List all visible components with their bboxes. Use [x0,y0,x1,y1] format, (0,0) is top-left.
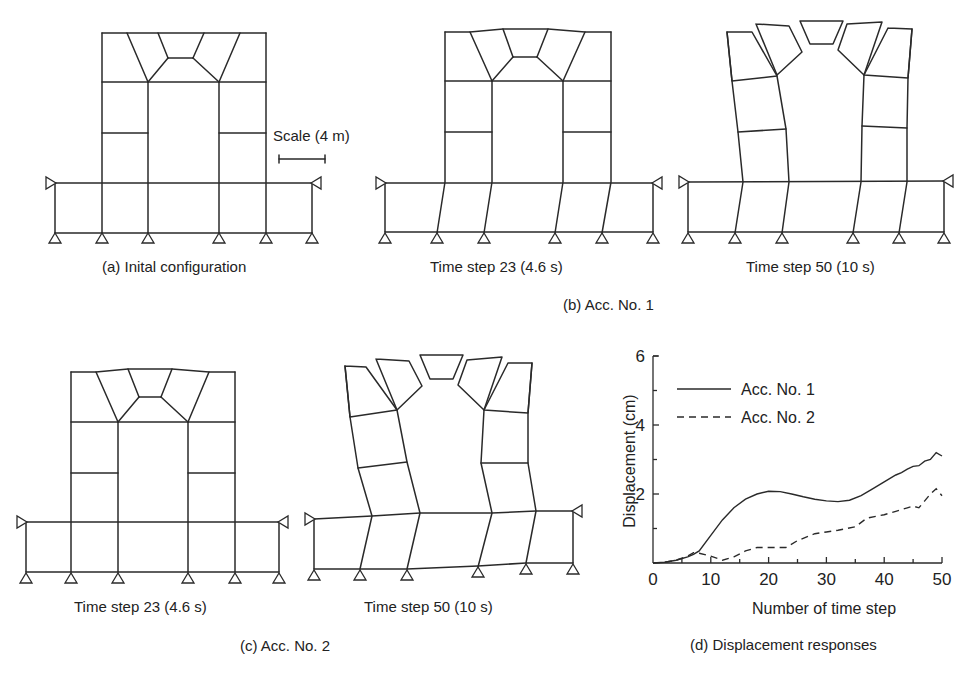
frame-member [470,32,492,81]
frame-member [484,81,492,233]
frame-member [96,372,118,422]
x-tick-label: 50 [933,570,952,589]
pin-support-icon [142,233,154,243]
frame-member [158,33,168,58]
panel-c-23: Time step 23 (4.6 s) [17,369,288,615]
frame-member [838,22,882,75]
frame-member [118,397,139,422]
pin-support-icon [379,233,391,243]
frame-member [503,29,513,57]
y-tick-label: 6 [636,347,645,366]
pin-support-icon [729,233,741,243]
pin-support-icon [49,233,61,243]
frame-member [899,29,912,233]
frame-member [492,57,513,81]
frame-member [688,181,944,182]
x-tick-label: 20 [759,570,778,589]
pin-support-icon [682,233,694,243]
pin-support-icon [520,564,532,574]
pin-support-icon [65,573,77,583]
legend-label: Acc. No. 1 [741,381,815,398]
group-caption-b: (b) Acc. No. 1 [563,296,654,313]
panel-b-50: Time step 50 (10 s) [679,21,953,275]
frame-member [420,355,463,379]
frame-member [188,372,209,422]
frame-member [314,563,573,569]
pin-support-icon [401,570,413,580]
frame-member [358,462,407,468]
pin-support-icon [647,233,659,243]
x-tick-label: 40 [875,570,894,589]
chart-xlabel: Number of time step [752,600,896,618]
frame-member [193,33,204,58]
panel-caption: (a) Inital configuration [102,258,246,275]
scale-label: Scale (4 m) [273,127,350,144]
pin-support-icon [549,233,561,243]
pin-support-icon [229,573,241,583]
panel-caption: Time step 23 (4.6 s) [430,258,563,275]
pin-support-icon [306,233,318,243]
panel-caption: Time step 50 (10 s) [364,598,493,615]
pin-support-icon [938,233,950,243]
frame-member [738,129,786,132]
chart-series [653,453,942,563]
frame-member [458,357,502,410]
legend-label: Acc. No. 2 [741,409,815,426]
pin-support-icon [20,573,32,583]
x-tick-label: 10 [701,570,720,589]
frame-member [128,369,139,397]
frame-member [537,29,548,57]
frame-member [219,33,240,82]
pin-support-icon [112,573,124,583]
pin-support-icon [213,233,225,243]
pin-support-icon [260,233,272,243]
pin-support-icon [96,233,108,243]
frame-member [127,33,148,82]
frame-member [376,359,422,410]
pin-support-icon [847,233,859,243]
series-line [653,453,942,563]
figure-canvas: (a) Inital configurationTime step 23 (4.… [0,0,969,682]
pin-support-icon [182,573,194,583]
panel-caption: Time step 50 (10 s) [746,258,875,275]
pin-support-icon [431,233,443,243]
frame-member [161,397,188,422]
pin-support-icon [478,233,490,243]
frame-member [437,32,445,233]
chart-title: (d) Displacement responses [690,636,877,653]
group-caption-c: (c) Acc. No. 2 [240,637,330,654]
frame-member [537,57,563,81]
panel-c-50: Time step 50 (10 s) [305,355,582,615]
frame-member [862,126,907,128]
frame-member [161,369,172,397]
panel-b-23: Time step 23 (4.6 s) [376,29,662,275]
x-tick-label: 0 [648,570,657,589]
frame-member [777,76,789,233]
scale-bar [279,155,325,163]
frame-member [756,24,802,75]
panel-a: (a) Inital configuration [46,33,321,275]
pin-support-icon [354,570,366,580]
frame-member [563,32,585,81]
x-tick-label: 30 [817,570,836,589]
frame-member [148,58,168,82]
frame-member [800,21,843,44]
pin-support-icon [472,567,484,577]
chart-ylabel: Displacement (cm) [621,391,639,531]
frame-member [397,410,420,569]
chart-legend: Acc. No. 1Acc. No. 2 [677,381,815,426]
panel-caption: Time step 23 (4.6 s) [74,598,207,615]
pin-support-icon [273,573,285,583]
structure-panels: (a) Inital configurationTime step 23 (4.… [17,21,953,615]
pin-support-icon [567,564,579,574]
displacement-chart: 01020304050246 Acc. No. 1Acc. No. 2 [636,347,952,589]
pin-support-icon [893,233,905,243]
pin-support-icon [308,570,320,580]
frame-member [193,58,219,82]
pin-support-icon [776,233,788,243]
frame-member [853,75,864,233]
frame-member [555,81,563,233]
pin-support-icon [596,233,608,243]
frame-member [478,410,492,567]
